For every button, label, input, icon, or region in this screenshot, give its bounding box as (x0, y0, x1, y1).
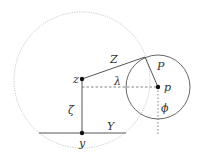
point-z (80, 77, 84, 81)
label-Y: Y (107, 120, 116, 133)
label-lambda: λ (113, 75, 121, 88)
point-y (80, 131, 84, 135)
point-p (156, 85, 160, 89)
label-P: P (156, 60, 165, 73)
label-y: y (78, 137, 86, 150)
label-p: p (164, 81, 171, 94)
label-z: z (72, 73, 79, 86)
label-phi: ϕ (161, 102, 169, 115)
label-zeta: ζ (68, 104, 75, 117)
geometry-diagram: z p y Z P Y ζ λ ϕ (0, 0, 202, 155)
label-Z: Z (109, 53, 118, 66)
